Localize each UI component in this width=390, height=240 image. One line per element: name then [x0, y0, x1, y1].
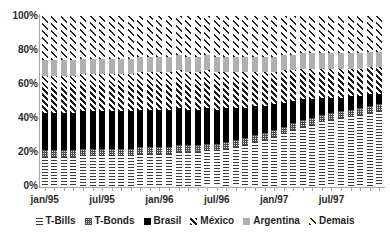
bar-segment	[42, 60, 48, 75]
bar-segment	[176, 152, 182, 186]
bar-segment	[147, 57, 153, 72]
y-axis-tick-label: 40%	[2, 113, 38, 123]
bar-segment	[147, 154, 153, 186]
x-axis-tick-mark	[179, 187, 180, 191]
bar-segment	[376, 52, 382, 67]
bar-segment	[42, 16, 48, 60]
bar-column	[99, 16, 105, 186]
bar-segment	[319, 98, 325, 115]
bar-segment	[80, 74, 86, 111]
bar-segment	[271, 72, 277, 104]
bar-column	[338, 16, 344, 186]
x-axis-tick-mark	[303, 187, 304, 191]
bar-column	[195, 16, 201, 186]
bar-column	[109, 16, 115, 186]
bar-segment	[338, 98, 344, 112]
legend-label: Demais	[319, 216, 355, 226]
bar-segment	[252, 106, 258, 135]
bar-segment	[262, 16, 268, 57]
bar-column	[61, 16, 67, 186]
legend-item[interactable]: Demais	[309, 216, 355, 226]
bar-segment	[90, 74, 96, 111]
x-axis-tick-mark	[265, 187, 266, 191]
x-axis-tick-mark	[83, 187, 84, 191]
bar-column	[70, 16, 76, 186]
bar-segment	[319, 53, 325, 68]
bar-segment	[348, 53, 354, 68]
bar-segment	[376, 67, 382, 94]
bar-segment	[262, 140, 268, 186]
bar-segment	[328, 98, 334, 113]
bar-segment	[51, 150, 57, 157]
bar-segment	[357, 96, 363, 108]
bar-column	[137, 16, 143, 186]
bar-segment	[109, 111, 115, 148]
bar-segment	[147, 16, 153, 57]
legend-label: Argentina	[253, 216, 300, 226]
bar-segment	[223, 108, 229, 142]
x-axis-tick-mark	[73, 187, 74, 191]
bar-segment	[90, 59, 96, 74]
bar-segment	[90, 149, 96, 156]
bar-segment	[281, 133, 287, 186]
bar-segment	[338, 16, 344, 53]
bar-segment	[262, 133, 268, 140]
bar-segment	[80, 59, 86, 74]
bar-column	[262, 16, 268, 186]
x-axis-tick-mark	[322, 187, 323, 191]
bar-segment	[42, 76, 48, 113]
bar-segment	[118, 74, 124, 111]
bar-segment	[319, 16, 325, 53]
legend-item[interactable]: México	[190, 216, 234, 226]
legend-item[interactable]: Argentina	[243, 216, 300, 226]
bar-segment	[118, 111, 124, 148]
x-axis-tick-mark	[45, 187, 46, 191]
bar-segment	[233, 72, 239, 108]
y-axis-tick-label: 0%	[2, 181, 38, 191]
x-axis-tick-mark	[293, 187, 294, 191]
bar-segment	[51, 76, 57, 113]
bar-segment	[348, 96, 354, 110]
bar-segment	[156, 110, 162, 147]
legend-item[interactable]: T-Bonds	[85, 216, 135, 226]
bar-segment	[309, 125, 315, 186]
x-axis-tick-mark	[188, 187, 189, 191]
bar-segment	[128, 111, 134, 148]
y-axis-tick-label: 60%	[2, 79, 38, 89]
x-axis-tick-label: jul/97	[319, 194, 345, 205]
legend-item[interactable]: Brasil	[144, 216, 182, 226]
bar-column	[319, 16, 325, 186]
bar-column	[357, 16, 363, 186]
bar-column	[176, 16, 182, 186]
bar-segment	[309, 16, 315, 53]
bar-segment	[233, 16, 239, 57]
bar-segment	[70, 150, 76, 157]
bar-segment	[300, 127, 306, 187]
bar-segment	[61, 150, 67, 157]
bar-segment	[80, 16, 86, 59]
bar-column	[51, 16, 57, 186]
bar-segment	[166, 147, 172, 154]
x-axis-tick-mark	[255, 187, 256, 191]
bar-segment	[137, 110, 143, 147]
bar-column	[242, 16, 248, 186]
bar-segment	[290, 16, 296, 55]
bar-segment	[338, 118, 344, 186]
bar-segment	[242, 16, 248, 57]
bar-segment	[70, 60, 76, 75]
bar-segment	[328, 113, 334, 120]
bar-segment	[185, 57, 191, 72]
legend-item[interactable]: T-Bills	[36, 216, 76, 226]
bar-column	[233, 16, 239, 186]
bar-segment	[233, 108, 239, 140]
bar-column	[281, 16, 287, 186]
bar-segment	[51, 16, 57, 60]
bar-segment	[357, 69, 363, 96]
bar-segment	[367, 67, 373, 94]
bar-segment	[80, 155, 86, 186]
bar-segment	[128, 74, 134, 111]
bar-segment	[90, 111, 96, 148]
bar-column	[367, 16, 373, 186]
bar-segment	[166, 16, 172, 57]
bar-segment	[262, 106, 268, 133]
